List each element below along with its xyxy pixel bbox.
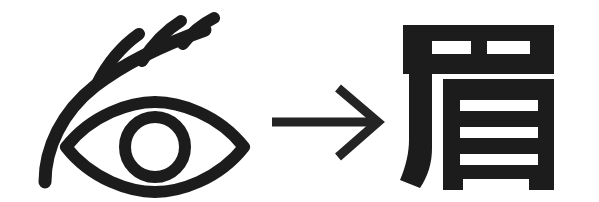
kanji-top-slot-right: [487, 41, 530, 54]
kanji-me-bar-2: [460, 127, 538, 138]
kanji-top-slot-left: [428, 41, 471, 54]
kanji-me-bottom-notch: [463, 179, 529, 190]
kanji-me-bar-3: [460, 154, 538, 165]
kanji-etymology-figure: A pictograph of an eye with an eyebrow a…: [0, 0, 599, 202]
kanji-mayu-group: [400, 25, 554, 190]
figure-canvas: [0, 0, 599, 202]
kanji-me-bar-1: [460, 100, 538, 111]
